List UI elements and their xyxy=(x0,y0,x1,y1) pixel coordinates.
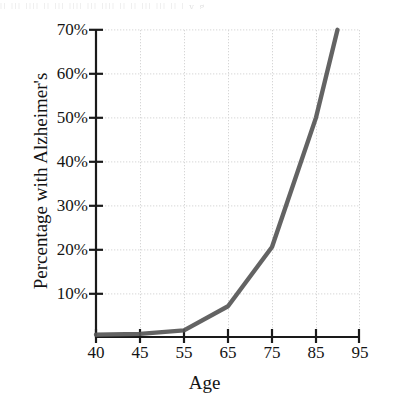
plot-area xyxy=(0,0,409,411)
chart-figure: || ||| |||| || ||| |||| ||| |||| || || |… xyxy=(0,0,409,411)
axis-spines xyxy=(95,29,360,338)
data-line-alzheimers xyxy=(96,30,338,335)
